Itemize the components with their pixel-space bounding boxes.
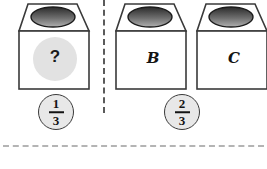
jar-opening-ellipse — [209, 7, 253, 27]
jar-label-unknown: ? — [33, 47, 77, 67]
horizontal-dotted-rule — [3, 145, 264, 147]
fraction-numerator: 1 — [39, 97, 73, 110]
jar-c: C — [194, 2, 267, 90]
probability-jars-figure: ? B — [0, 0, 267, 169]
probability-badge-one-third: 1 3 — [38, 94, 74, 130]
jar-b-shape — [113, 2, 193, 92]
fraction-denominator: 3 — [165, 114, 199, 127]
jar-opening-ellipse — [31, 7, 75, 27]
jar-label-c: C — [194, 49, 267, 67]
fraction-denominator: 3 — [39, 114, 73, 127]
fraction-stack: 2 3 — [165, 97, 199, 127]
fraction-numerator: 2 — [165, 97, 199, 110]
jar-label-b: B — [113, 49, 193, 67]
unknown-highlight-disc: ? — [33, 37, 77, 81]
jar-unknown: ? — [16, 2, 96, 90]
jar-b: B — [113, 2, 193, 90]
fraction-stack: 1 3 — [39, 97, 73, 127]
vertical-dashed-divider — [103, 0, 105, 113]
jar-opening-ellipse — [128, 7, 172, 27]
jar-c-shape — [194, 2, 267, 92]
probability-badge-two-thirds: 2 3 — [164, 94, 200, 130]
